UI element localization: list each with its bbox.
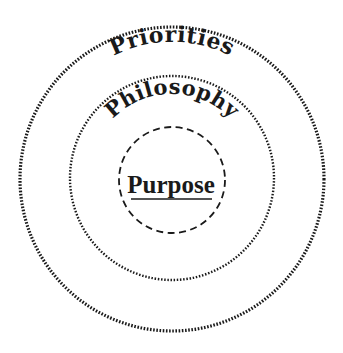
priorities-label: Priorities bbox=[105, 21, 239, 61]
priorities-label-text: Priorities bbox=[105, 21, 239, 61]
philosophy-label: Philosophy bbox=[100, 74, 246, 123]
purpose-label: Purpose bbox=[127, 171, 215, 198]
concentric-circles-diagram: Priorities Philosophy Purpose bbox=[0, 0, 343, 353]
philosophy-label-text: Philosophy bbox=[100, 74, 246, 123]
